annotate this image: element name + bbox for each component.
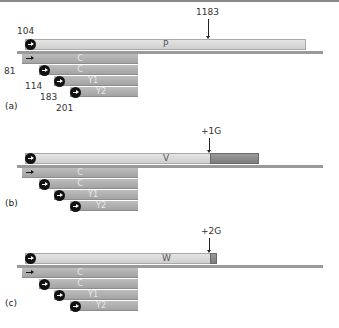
start-arrow-icon (25, 253, 36, 264)
start-number-label: 104 (17, 26, 34, 36)
main-bar-v (25, 153, 211, 164)
arrow-circle-icon (39, 179, 50, 190)
small-arrow-icon (26, 58, 32, 59)
arrow-circle-icon (54, 76, 65, 87)
start-arrow-icon (25, 39, 36, 50)
main-bar-label: P (163, 39, 168, 50)
marker-arrow-icon (209, 138, 210, 151)
extension-bar (210, 153, 259, 164)
marker-label: +1G (201, 126, 221, 136)
number-label: 114 (25, 81, 42, 91)
sub-bar-label: C (65, 168, 95, 178)
arrow-circle-icon (70, 201, 81, 212)
sub-bar-label: Y2 (86, 201, 116, 211)
sub-bar-label: C (65, 179, 95, 189)
sub-bar-label: Y1 (78, 76, 108, 86)
main-bar-label: W (162, 253, 171, 264)
main-bar-label: V (163, 153, 169, 164)
arrow-circle-icon (70, 301, 81, 312)
number-label: 183 (40, 92, 57, 102)
panel-letter: (b) (5, 198, 18, 208)
arrow-circle-icon (70, 87, 81, 98)
sub-bar-label: C (65, 54, 95, 64)
panel-c: +2G W C C Y1 Y2 (c) (0, 253, 339, 328)
small-arrow-icon (26, 272, 32, 273)
sub-bar-label: C (65, 279, 95, 289)
arrow-circle-icon (39, 65, 50, 76)
extension-bar (210, 253, 217, 264)
arrow-circle-icon (39, 279, 50, 290)
number-label: 81 (4, 66, 15, 76)
panel-letter: (a) (5, 101, 18, 111)
sub-bar-label: Y2 (86, 301, 116, 311)
marker-arrow-icon (208, 19, 209, 37)
arrow-circle-icon (54, 190, 65, 201)
marker-arrow-icon (209, 238, 210, 251)
sub-bar-label: C (65, 268, 95, 278)
panel-letter: (c) (5, 298, 17, 308)
panel-a: 104 1183 P C C 81 Y1 114 Y2 183 201 (a) (0, 39, 339, 149)
sub-bar-label: Y2 (86, 87, 116, 97)
small-arrow-icon (26, 172, 32, 173)
marker-label: 1183 (196, 7, 219, 17)
number-label: 201 (56, 103, 73, 113)
sub-bar-label: Y1 (78, 290, 108, 300)
marker-label: +2G (201, 226, 221, 236)
sub-bar-label: Y1 (78, 190, 108, 200)
top-border (0, 0, 339, 2)
main-bar-w (25, 253, 211, 264)
panel-b: +1G V C C Y1 Y2 (b) (0, 153, 339, 263)
arrow-circle-icon (54, 290, 65, 301)
sub-bar-label: C (65, 65, 95, 75)
start-arrow-icon (25, 153, 36, 164)
